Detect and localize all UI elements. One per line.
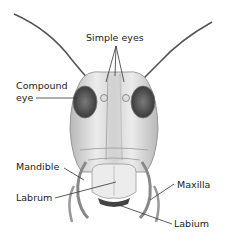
label-mandible: Mandible — [16, 161, 59, 172]
label-compound-eye-line2: eye — [16, 92, 33, 103]
label-labium: Labium — [174, 218, 209, 229]
grasshopper-head-diagram: Simple eyes Compound eye Mandible Labrum… — [0, 0, 227, 250]
label-labrum: Labrum — [16, 192, 52, 203]
label-simple-eyes: Simple eyes — [86, 32, 144, 43]
right-compound-eye — [131, 86, 155, 118]
left-compound-eye — [73, 86, 97, 118]
label-compound-eye-line1: Compound — [16, 80, 68, 91]
label-maxilla: Maxilla — [177, 179, 210, 190]
labium — [98, 198, 130, 207]
